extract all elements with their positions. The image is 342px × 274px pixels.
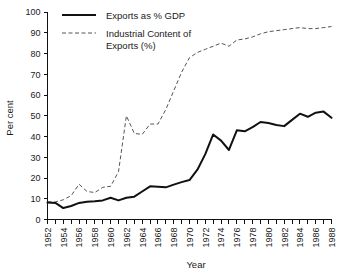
legend-label-exports-gdp: Exports as % GDP (106, 10, 185, 21)
x-tick-label: 1980 (264, 228, 274, 248)
series-line-industrial-content (48, 27, 332, 202)
x-tick-label: 1966 (153, 228, 163, 248)
chart-legend: Exports as % GDP Industrial Content of E… (62, 10, 191, 51)
y-tick-label: 80 (30, 49, 40, 59)
x-tick-label: 1972 (201, 228, 211, 248)
x-tick-label: 1984 (295, 228, 305, 248)
chart-container: 0102030405060708090100 19521954195619581… (0, 0, 342, 274)
y-tick-label: 20 (30, 173, 40, 183)
x-tick-label: 1956 (74, 228, 84, 248)
x-tick-label: 1952 (43, 228, 53, 248)
y-tick-label: 0 (35, 215, 40, 225)
y-tick-label: 70 (30, 70, 40, 80)
y-tick-label: 100 (25, 7, 40, 17)
legend-label-industrial-content-line2: Exports (%) (106, 40, 156, 51)
x-tick-label: 1970 (185, 228, 195, 248)
y-axis-ticks: 0102030405060708090100 (25, 7, 47, 225)
x-tick-label: 1986 (311, 228, 321, 248)
legend-label-industrial-content-line1: Industrial Content of (106, 28, 191, 39)
x-tick-label: 1988 (327, 228, 337, 248)
y-axis-title: Per cent (4, 100, 15, 136)
y-tick-label: 50 (30, 111, 40, 121)
y-tick-label: 60 (30, 90, 40, 100)
axes-group (48, 12, 333, 220)
x-axis-tick-labels: 1952195419561958196019621964196619681970… (43, 228, 337, 248)
y-tick-label: 40 (30, 132, 40, 142)
series-line-exports-gdp (48, 112, 332, 208)
x-tick-label: 1954 (59, 228, 69, 248)
y-tick-label: 30 (30, 153, 40, 163)
x-tick-label: 1976 (232, 228, 242, 248)
x-axis-ticks (48, 220, 332, 225)
x-tick-label: 1974 (216, 228, 226, 248)
x-tick-label: 1978 (248, 228, 258, 248)
x-tick-label: 1968 (169, 228, 179, 248)
y-tick-label: 90 (30, 28, 40, 38)
x-tick-label: 1962 (122, 228, 132, 248)
y-tick-label: 10 (30, 194, 40, 204)
x-tick-label: 1960 (106, 228, 116, 248)
x-tick-label: 1982 (280, 228, 290, 248)
x-tick-label: 1958 (90, 228, 100, 248)
line-chart: 0102030405060708090100 19521954195619581… (0, 0, 342, 274)
x-axis-title: Year (186, 259, 205, 270)
x-tick-label: 1964 (138, 228, 148, 248)
